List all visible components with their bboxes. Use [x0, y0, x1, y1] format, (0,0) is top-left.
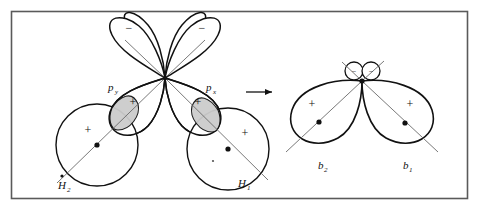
- nucleus-dot-h1: [225, 146, 230, 151]
- sign-p-right-upper: −: [199, 21, 206, 35]
- label-hydrogen-1-main: H: [237, 177, 247, 189]
- sign-p-left-upper: −: [126, 21, 133, 35]
- sign-hydrogen-2: +: [85, 123, 92, 137]
- label-p-left-main: p: [107, 81, 114, 93]
- sign-p-right-lower: +: [195, 95, 202, 109]
- sign-b2-major: +: [309, 97, 316, 111]
- nucleus-dot-b2: [316, 119, 321, 124]
- orbital-overlap-figure: − − + + + + p y p x H 2 H 1: [0, 0, 484, 213]
- label-p-right-main: p: [205, 81, 212, 93]
- sign-hydrogen-1: +: [242, 126, 249, 140]
- tick-dot-h1: [212, 160, 214, 162]
- tick-dot-h2: [60, 174, 63, 177]
- sign-b2-minor: −: [352, 67, 357, 76]
- nucleus-dot-h2: [94, 142, 99, 147]
- label-hydrogen-1-sub: 1: [247, 184, 251, 192]
- figure-container: − − + + + + p y p x H 2 H 1: [0, 0, 484, 213]
- sign-b1-major: +: [407, 97, 414, 111]
- nucleus-dot-carbon: [163, 76, 167, 80]
- sign-b1-minor: −: [369, 67, 374, 76]
- sign-p-left-lower: +: [130, 95, 137, 109]
- nucleus-dot-b1: [402, 120, 407, 125]
- nucleus-dot-center-right: [359, 78, 364, 83]
- label-b2-sub: 2: [324, 166, 328, 174]
- label-hydrogen-2-main: H: [57, 179, 67, 191]
- label-hydrogen-2-sub: 2: [67, 186, 71, 194]
- label-b1-sub: 1: [409, 166, 413, 174]
